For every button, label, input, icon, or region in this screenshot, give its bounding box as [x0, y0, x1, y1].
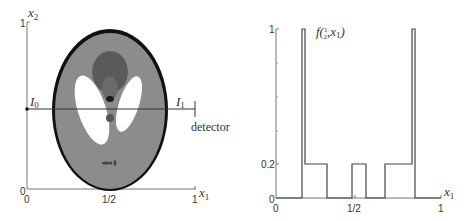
x-axis-label: x1	[443, 184, 454, 201]
detected-intensity-label: I1	[175, 94, 185, 110]
figure-canvas: I0 I1 detector x2 x1 1 0 0 1/2 1 f(12,x1…	[0, 0, 470, 221]
profile-line	[276, 29, 441, 198]
y-tick-1: 1	[20, 18, 26, 29]
x-axis-label: x1	[198, 185, 209, 202]
small-dark-spot	[106, 96, 114, 102]
source-point	[25, 107, 29, 111]
source-intensity-label: I0	[29, 94, 39, 110]
bottom-spot-1	[102, 162, 110, 165]
small-spot	[106, 114, 114, 122]
bottom-spot-2	[110, 162, 113, 165]
x-tick-0: 0	[24, 194, 30, 205]
y-tick-0.2: 0.2	[261, 159, 275, 170]
function-label: f(12,x1)	[316, 24, 345, 41]
x-tick-half: 1/2	[347, 203, 361, 214]
x-tick-1: 1	[192, 194, 198, 205]
x-tick-half: 1/2	[102, 194, 116, 205]
x-tick-1: 1	[438, 203, 444, 214]
y-axis-label: x2	[27, 5, 38, 22]
bottom-spot-3	[114, 160, 117, 166]
phantom-panel: I0 I1 detector x2 x1 1 0 0 1/2 1	[20, 5, 230, 205]
profile-chart: f(12,x1) x1 1 0.2 0 0 1/2 1	[261, 24, 454, 214]
shepp-logan-phantom	[52, 29, 168, 191]
detector-label: detector	[191, 120, 230, 134]
x-tick-0: 0	[273, 203, 279, 214]
y-tick-1: 1	[269, 24, 275, 35]
